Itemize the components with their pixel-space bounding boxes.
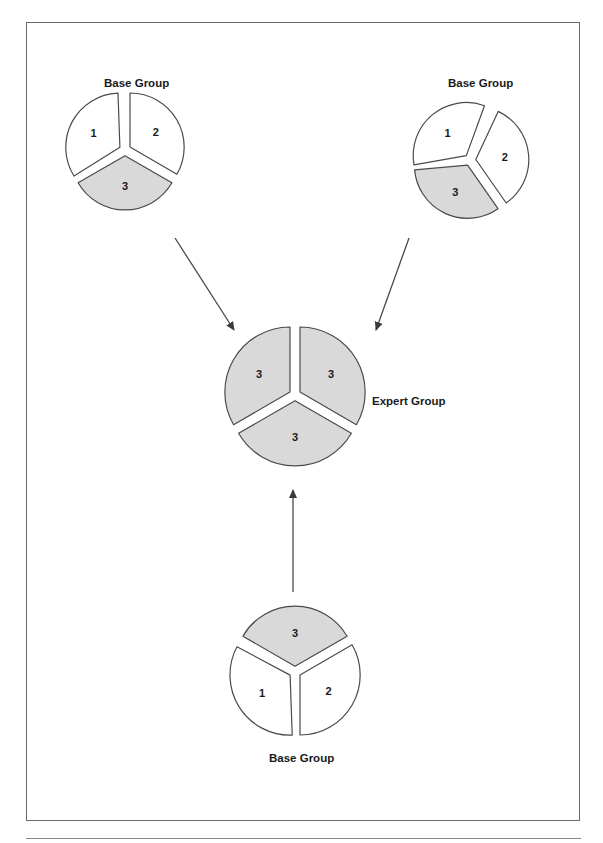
label-base-group-top-left: Base Group bbox=[104, 77, 169, 89]
arrow-top-right-to-expert bbox=[376, 238, 409, 330]
base-group-top-right: 123 bbox=[413, 102, 529, 218]
piece-number-label: 1 bbox=[91, 127, 97, 139]
piece-number-label: 1 bbox=[259, 687, 265, 699]
piece-number-label: 2 bbox=[502, 151, 508, 163]
piece-number-label: 3 bbox=[256, 368, 262, 380]
base-group-top-left: 123 bbox=[66, 93, 184, 210]
label-base-group-bottom: Base Group bbox=[269, 752, 334, 764]
piece-number-label: 3 bbox=[292, 627, 298, 639]
piece-number-label: 2 bbox=[326, 685, 332, 697]
label-base-group-top-right: Base Group bbox=[448, 77, 513, 89]
arrow-top-left-to-expert bbox=[175, 238, 234, 330]
expert-group: 333 bbox=[225, 327, 365, 466]
base-group-bottom: 123 bbox=[230, 606, 360, 735]
piece-number-label: 3 bbox=[452, 186, 458, 198]
diagram-canvas: 123 123 333 123 bbox=[0, 0, 603, 843]
piece-number-label: 3 bbox=[122, 180, 128, 192]
piece-number-label: 3 bbox=[292, 431, 298, 443]
label-expert-group: Expert Group bbox=[372, 395, 445, 407]
piece-number-label: 3 bbox=[328, 368, 334, 380]
piece-number-label: 1 bbox=[444, 127, 450, 139]
piece-number-label: 2 bbox=[153, 126, 159, 138]
